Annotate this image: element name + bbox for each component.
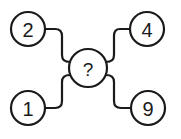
node-top-right: 4 [130, 12, 164, 46]
connector-top-left [45, 29, 70, 62]
connector-bottom-right [106, 75, 131, 108]
node-label: 1 [22, 98, 33, 120]
node-label: 9 [142, 98, 153, 120]
connector-top-right [106, 29, 130, 62]
node-label: 2 [22, 19, 33, 41]
center-node: ? [69, 49, 107, 87]
connector-bottom-left [45, 75, 70, 108]
node-bottom-right: 9 [131, 91, 165, 125]
node-top-left: 2 [11, 12, 45, 46]
node-bottom-left: 1 [11, 91, 45, 125]
node-label: 4 [141, 19, 152, 41]
puzzle-diagram: ? 2 4 1 9 [0, 0, 181, 139]
center-label: ? [83, 59, 94, 80]
